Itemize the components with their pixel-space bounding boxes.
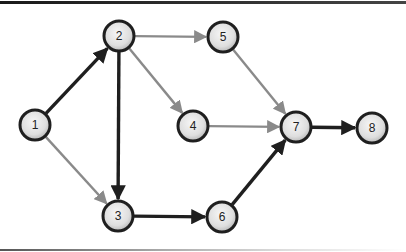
edge-5-to-7	[233, 49, 285, 113]
node-4: 4	[178, 111, 208, 141]
edge-1-to-2-critical	[46, 48, 107, 113]
edge-4-to-7	[209, 126, 279, 127]
node-6: 6	[207, 202, 237, 232]
node-8: 8	[357, 113, 387, 143]
node-7: 7	[281, 112, 311, 142]
node-3: 3	[103, 201, 133, 231]
node-label: 2	[116, 29, 123, 43]
node-label: 5	[220, 30, 227, 44]
node-label: 6	[219, 210, 226, 224]
edge-6-to-7-critical	[232, 140, 285, 205]
node-1: 1	[20, 110, 50, 140]
node-label: 1	[32, 118, 39, 132]
edge-2-to-5	[135, 36, 206, 37]
node-label: 3	[115, 209, 122, 223]
edge-1-to-3	[46, 137, 107, 204]
node-label: 8	[369, 121, 376, 135]
node-label: 4	[190, 119, 197, 133]
node-5: 5	[208, 22, 238, 52]
node-2: 2	[104, 21, 134, 51]
edge-3-to-6-critical	[134, 216, 205, 217]
network-diagram: 12345678	[0, 0, 406, 252]
edge-7-to-8-critical	[312, 127, 355, 128]
edge-2-to-3-critical	[118, 52, 119, 199]
edge-2-to-4	[129, 48, 182, 113]
node-label: 7	[293, 120, 300, 134]
